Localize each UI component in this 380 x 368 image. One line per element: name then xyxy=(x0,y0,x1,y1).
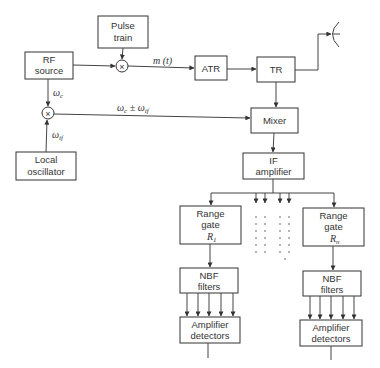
range-gate-rn-label-1: Range xyxy=(320,210,348,221)
multiply-icon: × xyxy=(45,109,50,119)
connections xyxy=(46,34,354,360)
multiplier-top: × xyxy=(116,60,128,72)
atr-block: ATR xyxy=(195,56,227,80)
atr-label: ATR xyxy=(202,63,220,74)
amplifier-detectors-n-label-1: Amplifier xyxy=(313,322,350,333)
nbf-filters-n-label-2: filters xyxy=(321,284,344,295)
local-oscillator-label-1: Local xyxy=(35,154,58,165)
nbf-filters-1-label-2: filters xyxy=(198,281,221,292)
tr-label: TR xyxy=(270,64,283,75)
range-gate-r1-label-1: Range xyxy=(197,208,225,219)
signal-label-omega-c-pm-omega-if: ωc ± ωif xyxy=(117,102,150,115)
amplifier-detectors-1-label-1: Amplifier xyxy=(192,319,229,330)
radar-block-diagram: Pulse train RF source × ATR TR Mixer × xyxy=(0,0,380,368)
pulse-train-label-1: Pulse xyxy=(111,20,135,31)
range-gate-r1-block: Range gate R1 xyxy=(180,206,241,244)
range-gate-r1-label-2: gate xyxy=(201,219,220,230)
nbf-filters-1-block: NBF filters xyxy=(180,268,238,293)
nbf-filters-n-block: NBF filters xyxy=(303,271,361,296)
ellipsis-dots xyxy=(255,216,290,260)
rf-source-label-1: RF xyxy=(43,54,56,65)
range-gate-rn-block: Range gate Rn xyxy=(303,208,364,246)
multiplier-bottom: × xyxy=(42,107,54,119)
amplifier-detectors-1-block: Amplifier detectors xyxy=(180,317,240,343)
dish-antenna-icon xyxy=(332,22,340,47)
local-oscillator-label-2: oscillator xyxy=(27,166,65,177)
amplifier-detectors-1-label-2: detectors xyxy=(190,330,229,341)
if-amplifier-block: IF amplifier xyxy=(243,153,304,179)
amplifier-detectors-n-block: Amplifier detectors xyxy=(300,320,362,346)
signal-label-omega-if: ωif xyxy=(52,129,64,142)
tr-block: TR xyxy=(257,57,295,82)
nbf-filters-n-label-1: NBF xyxy=(323,273,342,284)
rf-source-label-2: source xyxy=(35,65,64,76)
if-amplifier-label-1: IF xyxy=(269,155,278,166)
pulse-train-label-2: train xyxy=(114,32,132,43)
pulse-train-block: Pulse train xyxy=(98,16,148,48)
signal-label-omega-c: ωc xyxy=(53,87,64,100)
if-amplifier-label-2: amplifier xyxy=(256,166,292,177)
rf-source-block: RF source xyxy=(25,52,73,79)
amplifier-detectors-n-label-2: detectors xyxy=(311,333,350,344)
mixer-label: Mixer xyxy=(263,115,286,126)
nbf-filters-1-label-1: NBF xyxy=(200,270,219,281)
signal-label-m-t: m (t) xyxy=(153,55,173,67)
range-gate-rn-label-2: gate xyxy=(324,221,343,232)
local-oscillator-block: Local oscillator xyxy=(16,152,76,180)
mixer-block: Mixer xyxy=(251,108,298,133)
multiply-icon: × xyxy=(119,62,124,72)
